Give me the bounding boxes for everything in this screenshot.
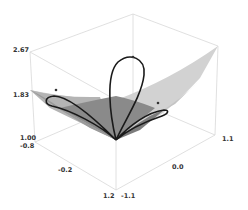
marker-point xyxy=(157,102,160,105)
surface xyxy=(30,46,218,140)
z-tick-bottom: 1.00 xyxy=(20,134,37,142)
y-tick-mid: 0.0 xyxy=(172,163,184,171)
marker-point xyxy=(132,56,135,59)
marker-point xyxy=(55,89,58,92)
z-tick-top: 2.67 xyxy=(13,46,29,54)
surface-plot-3d: 2.67 1.83 1.00 -0.8 -0.2 1.2 -1.1 0.0 1.… xyxy=(0,0,248,210)
x-tick-mid: -0.2 xyxy=(58,166,72,174)
x-tick-right: 1.2 xyxy=(103,192,115,200)
y-tick-right: 1.1 xyxy=(222,135,234,143)
z-tick-mid: 1.83 xyxy=(13,91,29,99)
x-tick-left: -0.8 xyxy=(20,142,35,150)
y-tick-left: -1.1 xyxy=(121,192,136,200)
